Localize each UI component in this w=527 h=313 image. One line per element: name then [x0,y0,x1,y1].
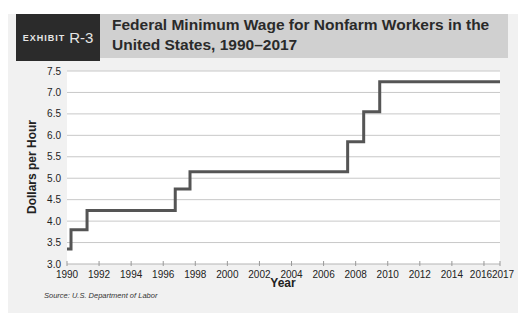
x-tick-label: 1998 [184,269,207,280]
y-tick-label: 5.5 [47,151,61,162]
y-axis-ticks: 3.03.54.04.55.05.56.06.57.07.5 [47,66,61,270]
x-tick-label: 2016 [470,269,493,280]
y-tick-label: 3.5 [47,237,61,248]
y-tick-label: 7.0 [47,87,61,98]
y-tick-label: 3.0 [47,259,61,270]
y-tick-label: 6.5 [47,108,61,119]
x-tick-label: 2017 [492,269,515,280]
y-tick-label: 7.5 [47,66,61,77]
x-tick-label: 2000 [216,269,239,280]
x-tick-label: 2014 [441,269,464,280]
x-tick-label: 1992 [88,269,111,280]
x-tick-label: 2012 [409,269,432,280]
x-tick-label: 2002 [248,269,271,280]
x-axis-title: Year [270,276,296,290]
y-tick-label: 4.5 [47,194,61,205]
step-chart: 3.03.54.04.55.05.56.06.57.07.5 199019921… [0,0,527,313]
x-tick-label: 1994 [120,269,143,280]
x-tick-label: 1990 [56,269,79,280]
x-tick-label: 1996 [152,269,175,280]
x-tick-label: 2010 [377,269,400,280]
plot-area [67,71,500,264]
y-tick-label: 6.0 [47,130,61,141]
y-tick-label: 4.0 [47,216,61,227]
x-tick-label: 2008 [345,269,368,280]
source-note: Source: U.S. Department of Labor [44,291,157,300]
y-axis-title: Dollars per Hour [25,120,39,214]
y-tick-label: 5.0 [47,173,61,184]
x-tick-label: 2006 [312,269,335,280]
